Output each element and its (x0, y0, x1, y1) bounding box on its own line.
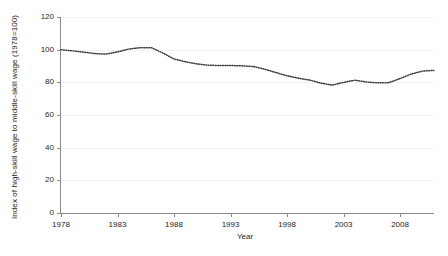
data-series-layer (0, 0, 448, 256)
line-chart-figure: Index of high-skill wage to middle-skill… (0, 0, 448, 256)
series-line-high-to-middle-skill (61, 48, 434, 85)
x-axis-title: Year (61, 232, 429, 241)
